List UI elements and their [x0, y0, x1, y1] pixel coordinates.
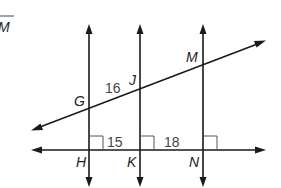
point-label-H: H	[76, 154, 87, 170]
point-label-K: K	[127, 154, 137, 170]
right-angle-mark-H	[89, 136, 103, 150]
right-angle-mark-N	[203, 136, 217, 150]
arrow-down-icon	[137, 177, 144, 187]
horizontal-line-HKN	[31, 147, 266, 154]
transversal-line-GJM	[31, 41, 266, 131]
arrow-up-icon	[86, 24, 93, 34]
vertical-line-JK	[137, 24, 144, 187]
arrow-right-icon	[255, 147, 266, 154]
right-angle-mark-K	[140, 136, 154, 150]
arrow-left-icon	[31, 147, 42, 154]
arrow-right-icon	[254, 41, 266, 48]
point-label-G: G	[74, 93, 85, 109]
measure-HK: 15	[107, 134, 123, 150]
point-label-J: J	[128, 72, 137, 88]
corner-label: M	[0, 19, 10, 35]
vertical-line-GH	[86, 24, 93, 187]
point-label-M: M	[186, 49, 198, 65]
measure-KN: 18	[164, 134, 180, 150]
arrow-up-icon	[137, 24, 144, 34]
vertical-line-MN	[200, 24, 207, 187]
arrow-left-icon	[31, 124, 43, 131]
arrow-down-icon	[200, 177, 207, 187]
arrow-down-icon	[86, 177, 93, 187]
measure-GJ: 16	[105, 80, 121, 96]
parallel-lines-diagram: M G J M H K N 16 15 18	[0, 0, 281, 188]
arrow-up-icon	[200, 24, 207, 34]
point-label-N: N	[189, 154, 200, 170]
